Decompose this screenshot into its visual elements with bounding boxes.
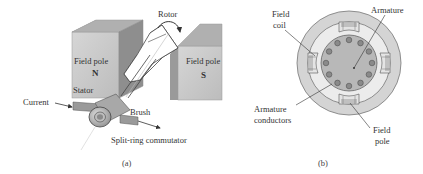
figure-a-motor-schematic: Rotor Field pole N Stator Field pole S C… [23, 9, 222, 168]
label-field-pole-1: Field [373, 125, 391, 135]
figure-b-cross-section: Field coil Armature Armature conductors … [254, 5, 404, 168]
label-armature: Armature [371, 5, 404, 15]
label-current: Current [23, 97, 50, 107]
current-in-arrow-icon [55, 103, 72, 107]
label-field-pole-right: Field pole [186, 56, 220, 66]
label-field-coil-2: coil [273, 20, 286, 30]
label-stator: Stator [73, 85, 93, 95]
label-armature-conductors-1: Armature [254, 104, 287, 114]
current-out-arrow-icon [138, 121, 160, 128]
label-pole-s: S [201, 70, 206, 80]
caption-a: (a) [122, 158, 132, 168]
label-brush: Brush [130, 107, 151, 117]
label-pole-n: N [92, 68, 99, 78]
caption-b: (b) [318, 158, 328, 168]
label-commutator: Split-ring commutator [111, 135, 187, 145]
label-field-coil-1: Field [272, 9, 290, 19]
label-armature-conductors-2: conductors [254, 115, 291, 125]
label-field-pole-2: pole [375, 136, 390, 146]
dc-motor-diagram: Rotor Field pole N Stator Field pole S C… [0, 0, 423, 174]
label-field-pole-left: Field pole [74, 56, 108, 66]
label-rotor: Rotor [158, 9, 178, 19]
